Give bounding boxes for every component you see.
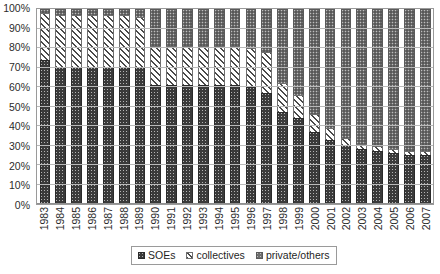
bar-segment-collective[interactable]: [341, 138, 352, 146]
bar-segment-collective[interactable]: [119, 15, 130, 68]
bar-segment-private[interactable]: [372, 9, 383, 146]
bar-segment-collective[interactable]: [293, 95, 304, 118]
bar-column[interactable]: [306, 9, 322, 204]
bar-column[interactable]: [164, 9, 180, 204]
bar-column[interactable]: [291, 9, 307, 204]
stacked-bar[interactable]: [103, 9, 114, 204]
bar-segment-soe[interactable]: [182, 85, 193, 204]
bar-column[interactable]: [180, 9, 196, 204]
bar-column[interactable]: [69, 9, 85, 204]
stacked-bar[interactable]: [71, 9, 82, 204]
stacked-bar[interactable]: [261, 9, 272, 204]
bar-column[interactable]: [148, 9, 164, 204]
bar-segment-collective[interactable]: [150, 46, 161, 85]
bar-segment-soe[interactable]: [103, 67, 114, 204]
bar-column[interactable]: [322, 9, 338, 204]
bar-segment-soe[interactable]: [277, 112, 288, 204]
stacked-bar[interactable]: [230, 9, 241, 204]
bar-segment-soe[interactable]: [135, 67, 146, 204]
stacked-bar[interactable]: [166, 9, 177, 204]
legend-item[interactable]: collectives: [186, 249, 244, 261]
bar-segment-soe[interactable]: [71, 67, 82, 204]
stacked-bar[interactable]: [309, 9, 320, 204]
bar-segment-soe[interactable]: [325, 140, 336, 204]
bar-column[interactable]: [85, 9, 101, 204]
bar-segment-collective[interactable]: [214, 46, 225, 85]
bar-segment-soe[interactable]: [341, 145, 352, 204]
bar-segment-collective[interactable]: [87, 15, 98, 68]
bar-segment-collective[interactable]: [55, 15, 66, 68]
stacked-bar[interactable]: [246, 9, 257, 204]
bar-segment-private[interactable]: [309, 9, 320, 114]
bar-segment-collective[interactable]: [135, 17, 146, 68]
stacked-bar[interactable]: [420, 9, 431, 204]
bar-segment-soe[interactable]: [119, 67, 130, 204]
bar-column[interactable]: [401, 9, 417, 204]
bar-segment-soe[interactable]: [198, 85, 209, 204]
bar-segment-private[interactable]: [388, 9, 399, 149]
stacked-bar[interactable]: [372, 9, 383, 204]
bar-segment-private[interactable]: [230, 9, 241, 46]
bar-segment-private[interactable]: [356, 9, 367, 144]
bar-column[interactable]: [354, 9, 370, 204]
bar-column[interactable]: [132, 9, 148, 204]
bar-segment-soe[interactable]: [150, 85, 161, 204]
bar-column[interactable]: [53, 9, 69, 204]
legend-item[interactable]: private/others: [256, 249, 330, 261]
stacked-bar[interactable]: [198, 9, 209, 204]
stacked-bar[interactable]: [356, 9, 367, 204]
bar-segment-private[interactable]: [198, 9, 209, 46]
bar-segment-soe[interactable]: [404, 155, 415, 204]
bar-segment-soe[interactable]: [420, 155, 431, 204]
bar-segment-soe[interactable]: [309, 132, 320, 204]
bar-segment-collective[interactable]: [71, 15, 82, 68]
stacked-bar[interactable]: [119, 9, 130, 204]
bar-segment-private[interactable]: [293, 9, 304, 95]
bar-segment-collective[interactable]: [309, 114, 320, 132]
stacked-bar[interactable]: [182, 9, 193, 204]
bar-segment-soe[interactable]: [230, 85, 241, 204]
bar-segment-soe[interactable]: [55, 67, 66, 204]
stacked-bar[interactable]: [404, 9, 415, 204]
bar-column[interactable]: [100, 9, 116, 204]
bar-segment-soe[interactable]: [87, 67, 98, 204]
bar-segment-collective[interactable]: [103, 15, 114, 68]
bar-segment-collective[interactable]: [325, 128, 336, 140]
bar-segment-private[interactable]: [182, 9, 193, 46]
bar-segment-collective[interactable]: [277, 83, 288, 112]
bar-segment-private[interactable]: [135, 9, 146, 17]
stacked-bar[interactable]: [55, 9, 66, 204]
bar-column[interactable]: [370, 9, 386, 204]
legend-item[interactable]: SOEs: [138, 249, 175, 261]
stacked-bar[interactable]: [293, 9, 304, 204]
stacked-bar[interactable]: [277, 9, 288, 204]
bar-segment-private[interactable]: [404, 9, 415, 151]
bar-segment-soe[interactable]: [246, 87, 257, 204]
bar-segment-collective[interactable]: [166, 46, 177, 85]
stacked-bar[interactable]: [214, 9, 225, 204]
stacked-bar[interactable]: [150, 9, 161, 204]
bar-segment-private[interactable]: [341, 9, 352, 138]
bar-segment-collective[interactable]: [230, 46, 241, 85]
bar-segment-collective[interactable]: [246, 48, 257, 87]
bar-segment-private[interactable]: [325, 9, 336, 128]
bar-segment-private[interactable]: [420, 9, 431, 151]
stacked-bar[interactable]: [40, 9, 51, 204]
bar-segment-soe[interactable]: [372, 151, 383, 204]
bar-segment-soe[interactable]: [214, 85, 225, 204]
bar-segment-soe[interactable]: [40, 60, 51, 204]
bar-column[interactable]: [386, 9, 402, 204]
bar-column[interactable]: [338, 9, 354, 204]
bar-column[interactable]: [243, 9, 259, 204]
bar-column[interactable]: [116, 9, 132, 204]
bar-segment-private[interactable]: [214, 9, 225, 46]
bar-segment-collective[interactable]: [40, 13, 51, 60]
bar-segment-collective[interactable]: [198, 46, 209, 85]
stacked-bar[interactable]: [388, 9, 399, 204]
bar-segment-soe[interactable]: [356, 149, 367, 204]
stacked-bar[interactable]: [325, 9, 336, 204]
stacked-bar[interactable]: [135, 9, 146, 204]
bar-column[interactable]: [227, 9, 243, 204]
bar-column[interactable]: [417, 9, 433, 204]
stacked-bar[interactable]: [341, 9, 352, 204]
